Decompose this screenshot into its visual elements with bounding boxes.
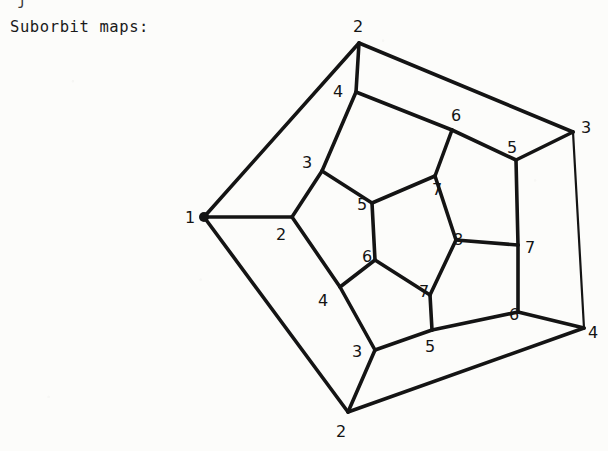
vertex-label: 8 [453, 230, 463, 249]
vertex-label: 2 [353, 17, 363, 36]
graph-edge [518, 312, 584, 328]
vertex-label: 5 [425, 337, 435, 356]
scanned-page: j Suborbit maps: 12342457653423678756 [0, 0, 608, 451]
graph-edge [204, 217, 348, 412]
graph-edge [456, 240, 518, 245]
vertex-label: 6 [362, 247, 372, 266]
graph-edge [204, 43, 359, 217]
graph-edge [435, 130, 452, 176]
vertex-label: 3 [352, 342, 362, 361]
graph-edge [573, 132, 584, 328]
graph-vertex-dots [199, 212, 209, 222]
vertex-label: 1 [185, 208, 195, 227]
graph-edge [356, 43, 359, 92]
graph-edge [516, 160, 518, 245]
graph-vertex-labels: 12342457653423678756 [185, 17, 598, 441]
graph-edge [432, 312, 518, 330]
vertex-label: 3 [302, 153, 312, 172]
vertex-label: 7 [419, 282, 429, 301]
vertex-label: 6 [451, 106, 461, 125]
graph-edge [372, 203, 375, 260]
graph-edge [292, 171, 322, 217]
graph-edge [430, 295, 432, 330]
graph-edge [322, 92, 356, 171]
vertex-label: 6 [509, 305, 519, 324]
graph-edge [356, 92, 452, 130]
vertex-label: 5 [507, 138, 517, 157]
suborbit-map-figure: 12342457653423678756 [0, 0, 608, 451]
vertex-label: 4 [333, 82, 343, 101]
graph-edge [516, 132, 573, 160]
vertex-label: 4 [318, 291, 328, 310]
graph-edge [359, 43, 573, 132]
graph-edges [204, 43, 584, 412]
graph-edge [375, 330, 432, 350]
vertex-label: 7 [525, 238, 535, 257]
vertex-label: 3 [581, 118, 591, 137]
vertex-label: 2 [276, 225, 286, 244]
graph-edge [372, 176, 435, 203]
vertex-label: 2 [336, 422, 346, 441]
graph-edge [348, 328, 584, 412]
graph-edge [292, 217, 340, 287]
marked-vertex-dot [199, 212, 209, 222]
vertex-label: 7 [432, 180, 442, 199]
vertex-label: 4 [588, 323, 598, 342]
vertex-label: 5 [357, 195, 367, 214]
